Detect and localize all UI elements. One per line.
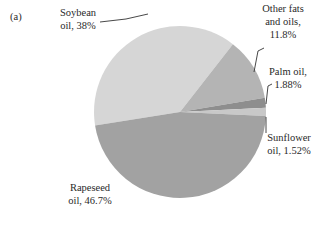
- slice-label-line: oil, 1.52%: [267, 145, 311, 156]
- slice-label-line: oil, 38%: [60, 20, 96, 31]
- slice-label-line: Soybean: [60, 7, 97, 18]
- pie-slices: [94, 26, 266, 198]
- slice-label-palm-oil: Palm oil,1.88%: [269, 66, 307, 90]
- slice-label-other-fats-and-oils: Other fatsand oils,11.8%: [262, 3, 304, 40]
- panel-label: (a): [10, 11, 22, 23]
- slice-label-line: oil, 46.7%: [68, 195, 112, 206]
- leader-line-palm-oil: [266, 84, 272, 104]
- slice-label-line: Rapeseed: [70, 182, 111, 193]
- leader-line-other-fats-and-oils: [254, 48, 264, 72]
- slice-label-line: Other fats: [262, 3, 304, 14]
- leader-line-soybean-oil: [100, 14, 148, 22]
- pie-slice-rapeseed-oil: [95, 112, 266, 198]
- slice-label-soybean-oil: Soybeanoil, 38%: [60, 7, 97, 31]
- slice-label-line: 11.8%: [270, 29, 297, 40]
- slice-label-line: Sunflower: [267, 132, 311, 143]
- slice-label-sunflower-oil: Sunfloweroil, 1.52%: [267, 132, 311, 156]
- slice-label-line: Palm oil,: [269, 66, 307, 77]
- slice-label-line: and oils,: [265, 16, 301, 27]
- slice-label-rapeseed-oil: Rapeseedoil, 46.7%: [68, 182, 112, 206]
- pie-chart: (a) Soybeanoil, 38%Other fatsand oils,11…: [0, 0, 329, 225]
- slice-label-line: 1.88%: [274, 79, 301, 90]
